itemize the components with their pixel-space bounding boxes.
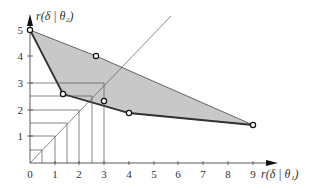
svg-text:1: 1 [52, 168, 58, 180]
svg-text:9: 9 [250, 168, 256, 180]
point [27, 27, 32, 32]
y-tick-labels: 1 2 3 4 5 [18, 24, 24, 142]
point [101, 98, 106, 103]
svg-text:3: 3 [101, 168, 107, 180]
svg-text:5: 5 [151, 168, 157, 180]
point [93, 53, 98, 58]
svg-text:6: 6 [175, 168, 181, 180]
svg-text:2: 2 [18, 104, 24, 116]
svg-text:2: 2 [76, 168, 82, 180]
y-axis-arrow-icon [27, 14, 33, 26]
point [60, 91, 65, 96]
svg-text:5: 5 [18, 24, 24, 36]
x-axis-label: r(δ | θ₁) [261, 167, 299, 181]
risk-set-region [30, 30, 253, 125]
svg-text:4: 4 [126, 168, 132, 180]
point [126, 110, 131, 115]
point [250, 122, 255, 127]
svg-text:8: 8 [225, 168, 231, 180]
svg-text:0: 0 [27, 168, 33, 180]
risk-set-diagram: 0 1 2 3 4 5 6 7 8 9 1 2 3 4 5 r(δ | θ₁) … [0, 0, 319, 189]
svg-text:7: 7 [200, 168, 206, 180]
y-axis-label: r(δ | θ₂) [36, 9, 74, 23]
svg-text:1: 1 [18, 130, 24, 142]
svg-text:3: 3 [18, 77, 24, 89]
x-axis-arrow-icon [266, 160, 278, 166]
x-tick-labels: 0 1 2 3 4 5 6 7 8 9 [27, 168, 256, 180]
svg-text:4: 4 [18, 50, 24, 62]
